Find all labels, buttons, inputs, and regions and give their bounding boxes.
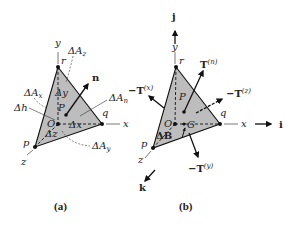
panel-b: j i k y x z r q p O P G ΔB T(n) −T(x) −T…: [128, 11, 283, 213]
vertex-r: [56, 65, 60, 69]
z-axis-line: [27, 150, 33, 155]
axis-z-label: z: [20, 156, 27, 167]
unit-k-label: k: [139, 182, 147, 193]
traction-y-arrow: [189, 133, 198, 157]
panel-a: y x z r q p O P n ΔAz ΔAx ΔAn ΔAy Δh Δy …: [13, 37, 129, 213]
axis-y-label-b: y: [171, 41, 178, 52]
point-p-label: P: [57, 102, 65, 113]
dAy-label: ΔAy: [91, 140, 111, 153]
dAn-label: ΔAn: [108, 92, 128, 105]
dh-label: Δh: [13, 102, 28, 113]
dAx-label: ΔAx: [23, 87, 42, 100]
dAz-label: ΔAz: [67, 45, 86, 58]
dz-label: Δz: [44, 128, 58, 139]
centroid-g: [182, 122, 185, 125]
vertex-p-label-b: p: [141, 138, 148, 149]
axis-x-label-b: x: [241, 118, 247, 129]
vertex-r-b: [174, 65, 178, 69]
vertex-p-label: p: [23, 137, 30, 148]
vertex-q-label: q: [102, 107, 108, 118]
vertex-o-b: [173, 122, 177, 126]
axis-x-label: x: [123, 118, 129, 129]
vertex-r-label: r: [61, 55, 67, 66]
axis-y-label: y: [54, 37, 61, 48]
leader-dAz: [66, 56, 73, 82]
vertex-r-label-b: r: [179, 55, 185, 66]
centroid-g-label: G: [187, 119, 195, 130]
caption-b: (b): [179, 200, 193, 213]
vertex-p: [33, 145, 37, 149]
vertex-q-b: [218, 122, 222, 126]
caption-a: (a): [54, 200, 67, 213]
traction-x-arrow: [149, 96, 164, 108]
traction-x-label: −T(x): [128, 84, 154, 96]
z-axis-line-b: [145, 151, 151, 158]
vertex-p-b: [151, 146, 155, 150]
traction-n-label: T(n): [200, 58, 218, 70]
volume-dB-label: ΔB: [156, 130, 172, 141]
vertex-q: [100, 122, 104, 126]
axis-z-label-b: z: [137, 154, 144, 165]
tetrahedron-figure: y x z r q p O P n ΔAz ΔAx ΔAn ΔAy Δh Δy …: [0, 0, 288, 228]
dx-label: Δx: [68, 119, 82, 130]
unit-j-label: j: [171, 11, 176, 22]
k-arrow: [145, 170, 155, 181]
vertex-o-label-b: O: [164, 118, 172, 129]
dy-label: Δy: [54, 87, 68, 98]
normal-label: n: [92, 72, 100, 83]
point-p-b: [182, 110, 186, 114]
point-p-label-b: P: [178, 91, 186, 102]
unit-i-label: i: [279, 119, 283, 130]
vertex-o: [56, 122, 60, 126]
traction-z-label: −T(z): [226, 87, 251, 99]
vertex-q-label-b: q: [220, 107, 226, 118]
traction-y-label: −T(y): [188, 162, 214, 174]
